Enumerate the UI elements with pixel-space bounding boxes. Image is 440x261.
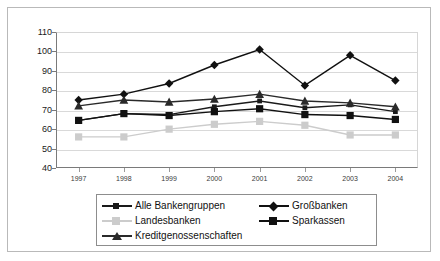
legend-symbol-icon bbox=[101, 230, 133, 242]
x-tick-label-2000: 2000 bbox=[194, 175, 234, 182]
legend-entry-alle-bankengruppen[interactable]: Alle Bankengruppen bbox=[101, 198, 258, 213]
series-grossbanken bbox=[74, 45, 399, 104]
chart-series-svg bbox=[56, 32, 418, 168]
y-tick-label-90: 90 bbox=[28, 67, 52, 76]
y-tick-label-70: 70 bbox=[28, 106, 52, 115]
legend-marker-small-square-icon bbox=[113, 203, 119, 209]
data-point-marker bbox=[75, 117, 82, 124]
data-point-marker bbox=[392, 116, 399, 123]
x-tick-mark-1997 bbox=[79, 168, 80, 172]
x-tick-label-2002: 2002 bbox=[285, 175, 325, 182]
legend-label: Sparkassen bbox=[290, 215, 345, 226]
data-point-marker bbox=[391, 76, 399, 84]
data-point-marker bbox=[165, 79, 173, 87]
legend-label: Kreditgenossenschaften bbox=[133, 230, 242, 241]
legend-row: Kreditgenossenschaften bbox=[101, 228, 372, 243]
x-tick-label-2001: 2001 bbox=[240, 175, 280, 182]
legend-marker-triangle-icon bbox=[112, 232, 122, 240]
x-tick-mark-2000 bbox=[214, 168, 215, 172]
legend-label: Großbanken bbox=[290, 200, 348, 211]
legend-entry-kreditgenossenschaften[interactable]: Kreditgenossenschaften bbox=[101, 228, 261, 243]
x-tick-mark-2003 bbox=[350, 168, 351, 172]
data-point-marker bbox=[211, 121, 218, 128]
y-tick-mark-80 bbox=[52, 90, 56, 91]
y-tick-mark-110 bbox=[52, 32, 56, 33]
y-tick-mark-100 bbox=[52, 51, 56, 52]
y-tick-label-110: 110 bbox=[28, 28, 52, 37]
data-point-marker bbox=[392, 131, 399, 138]
x-tick-label-1998: 1998 bbox=[104, 175, 144, 182]
x-tick-mark-2001 bbox=[260, 168, 261, 172]
y-tick-mark-60 bbox=[52, 129, 56, 130]
legend-entry-landesbanken[interactable]: Landesbanken bbox=[101, 213, 258, 228]
data-point-marker bbox=[166, 112, 173, 119]
data-point-marker bbox=[301, 122, 308, 129]
data-point-marker bbox=[166, 126, 173, 133]
y-tick-mark-70 bbox=[52, 110, 56, 111]
figure-frame: 405060708090100110 Alle BankengruppenGro… bbox=[7, 7, 431, 252]
legend-marker-diamond-icon bbox=[269, 201, 279, 211]
legend-symbol-icon bbox=[101, 215, 133, 227]
x-tick-label-2003: 2003 bbox=[330, 175, 370, 182]
data-point-marker bbox=[257, 99, 262, 104]
data-point-marker bbox=[302, 105, 307, 110]
x-tick-label-2004: 2004 bbox=[375, 175, 415, 182]
y-tick-label-60: 60 bbox=[28, 125, 52, 134]
y-tick-mark-50 bbox=[52, 149, 56, 150]
x-tick-label-1997: 1997 bbox=[59, 175, 99, 182]
data-point-marker bbox=[120, 133, 127, 140]
x-tick-mark-2002 bbox=[305, 168, 306, 172]
data-point-marker bbox=[75, 133, 82, 140]
data-point-marker bbox=[210, 61, 218, 69]
data-point-marker bbox=[256, 105, 263, 112]
chart-legend: Alle BankengruppenGroßbankenLandesbanken… bbox=[96, 194, 377, 246]
x-tick-mark-1998 bbox=[124, 168, 125, 172]
data-point-marker bbox=[256, 118, 263, 125]
legend-entry-sparkassen[interactable]: Sparkassen bbox=[258, 213, 372, 228]
x-tick-mark-2004 bbox=[395, 168, 396, 172]
legend-marker-square-icon bbox=[269, 217, 277, 225]
data-point-marker bbox=[301, 111, 308, 118]
legend-label: Alle Bankengruppen bbox=[133, 200, 225, 211]
legend-row: Alle BankengruppenGroßbanken bbox=[101, 198, 372, 213]
series-sparkassen bbox=[75, 105, 399, 124]
y-tick-mark-90 bbox=[52, 71, 56, 72]
legend-row: LandesbankenSparkassen bbox=[101, 213, 372, 228]
y-tick-label-80: 80 bbox=[28, 86, 52, 95]
legend-symbol-icon bbox=[258, 215, 290, 227]
x-tick-label-1999: 1999 bbox=[149, 175, 189, 182]
legend-symbol-icon bbox=[101, 200, 133, 212]
data-point-marker bbox=[346, 51, 354, 59]
x-tick-mark-1999 bbox=[169, 168, 170, 172]
y-tick-label-40: 40 bbox=[28, 164, 52, 173]
data-point-marker bbox=[120, 110, 127, 117]
y-tick-label-100: 100 bbox=[28, 47, 52, 56]
legend-entry-grossbanken[interactable]: Großbanken bbox=[258, 198, 372, 213]
data-point-marker bbox=[347, 112, 354, 119]
series-landesbanken bbox=[75, 118, 399, 141]
legend-label: Landesbanken bbox=[133, 215, 201, 226]
data-point-marker bbox=[211, 108, 218, 115]
y-tick-mark-40 bbox=[52, 168, 56, 169]
y-tick-label-50: 50 bbox=[28, 145, 52, 154]
chart-screenshot: 405060708090100110 Alle BankengruppenGro… bbox=[0, 0, 440, 261]
legend-marker-square-icon bbox=[112, 217, 120, 225]
y-axis-tick-labels: 405060708090100110 bbox=[26, 32, 52, 168]
legend-symbol-icon bbox=[258, 200, 290, 212]
data-point-marker bbox=[347, 131, 354, 138]
